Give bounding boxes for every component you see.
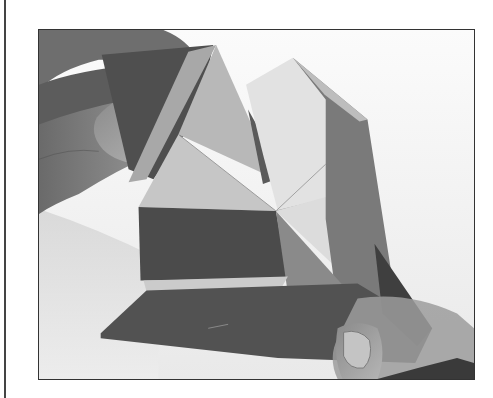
paper-square-dark [139,207,288,281]
origami-photo [38,29,475,380]
origami-photo-illustration [39,30,474,379]
page-margin-rule [4,0,6,398]
right-thumbnail [344,331,371,368]
